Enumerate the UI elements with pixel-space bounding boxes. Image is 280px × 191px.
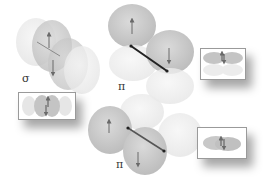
inset-sigma: [18, 92, 76, 120]
sigma-label: σ: [22, 72, 30, 85]
orbital-diagram: σ π π: [0, 0, 280, 191]
inset-pi-bottom: [197, 127, 247, 159]
pi-bottom-orbitals: [88, 94, 202, 175]
pi-bottom-label: π: [116, 158, 123, 171]
pi-top-label: π: [118, 80, 125, 93]
inset-pi-top: [200, 48, 246, 80]
